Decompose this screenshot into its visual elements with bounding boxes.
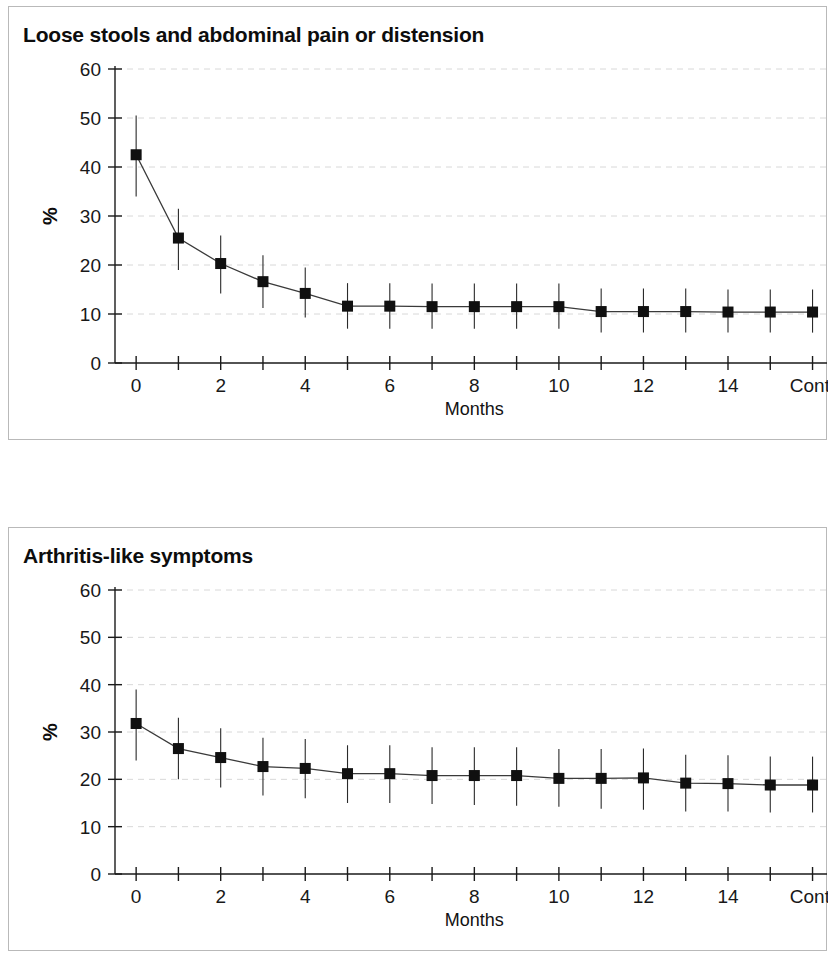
data-point-marker[interactable] <box>131 718 142 729</box>
data-point-marker[interactable] <box>342 301 353 312</box>
data-point-marker[interactable] <box>300 763 311 774</box>
x-tick-label: 0 <box>131 886 142 907</box>
data-point-marker[interactable] <box>300 288 311 299</box>
x-tick-label: 0 <box>131 375 142 396</box>
y-tick-label: 60 <box>80 59 101 80</box>
y-tick-label: 0 <box>90 864 101 885</box>
x-tick-label: 4 <box>300 886 311 907</box>
data-point-marker[interactable] <box>384 768 395 779</box>
data-point-marker[interactable] <box>722 778 733 789</box>
data-point-marker[interactable] <box>131 149 142 160</box>
chart-panel-loose-stools: Loose stools and abdominal pain or diste… <box>8 6 827 440</box>
y-tick-label: 30 <box>80 722 101 743</box>
x-axis-title: Months <box>445 910 504 930</box>
x-tick-label: 6 <box>385 886 396 907</box>
y-tick-label: 40 <box>80 675 101 696</box>
x-tick-label: 10 <box>548 375 569 396</box>
y-axis-title: % <box>39 723 61 741</box>
x-tick-label: 8 <box>469 375 480 396</box>
x-tick-label: 14 <box>717 375 739 396</box>
data-point-marker[interactable] <box>638 306 649 317</box>
data-point-marker[interactable] <box>511 770 522 781</box>
data-point-marker[interactable] <box>765 307 776 318</box>
data-point-marker[interactable] <box>384 301 395 312</box>
chart-svg: 010203040506002468101214Cont.Months% <box>9 7 828 441</box>
x-tick-label: 12 <box>633 886 654 907</box>
x-tick-label: 8 <box>469 886 480 907</box>
chart-panel-arthritis: Arthritis-like symptoms 0102030405060024… <box>8 527 827 951</box>
y-tick-label: 40 <box>80 157 101 178</box>
chart-svg: 010203040506002468101214Cont.Months% <box>9 528 828 952</box>
x-axis-title: Months <box>445 399 504 419</box>
data-point-marker[interactable] <box>680 306 691 317</box>
data-point-marker[interactable] <box>680 778 691 789</box>
data-point-marker[interactable] <box>427 301 438 312</box>
y-tick-label: 20 <box>80 769 101 790</box>
y-tick-label: 60 <box>80 580 101 601</box>
x-tick-label: 12 <box>633 375 654 396</box>
y-tick-label: 20 <box>80 255 101 276</box>
y-tick-label: 50 <box>80 627 101 648</box>
data-point-marker[interactable] <box>469 770 480 781</box>
data-point-marker[interactable] <box>638 772 649 783</box>
y-tick-label: 10 <box>80 817 101 838</box>
data-point-marker[interactable] <box>553 301 564 312</box>
data-point-marker[interactable] <box>807 780 818 791</box>
data-point-marker[interactable] <box>596 773 607 784</box>
y-tick-label: 50 <box>80 108 101 129</box>
data-point-marker[interactable] <box>596 306 607 317</box>
data-point-marker[interactable] <box>215 752 226 763</box>
plot-area-1: 010203040506002468101214Cont.Months% <box>9 7 826 439</box>
x-tick-label: 6 <box>385 375 396 396</box>
x-tick-label: 2 <box>215 375 226 396</box>
data-point-marker[interactable] <box>553 773 564 784</box>
x-tick-label: 10 <box>548 886 569 907</box>
data-point-marker[interactable] <box>807 307 818 318</box>
data-point-marker[interactable] <box>427 770 438 781</box>
data-point-marker[interactable] <box>511 301 522 312</box>
y-tick-label: 10 <box>80 304 101 325</box>
data-point-marker[interactable] <box>765 780 776 791</box>
data-point-marker[interactable] <box>469 301 480 312</box>
x-tick-label: 2 <box>215 886 226 907</box>
y-tick-label: 30 <box>80 206 101 227</box>
data-point-marker[interactable] <box>257 761 268 772</box>
plot-area-2: 010203040506002468101214Cont.Months% <box>9 528 826 950</box>
x-tick-label: 4 <box>300 375 311 396</box>
data-point-marker[interactable] <box>257 276 268 287</box>
x-tick-label: Cont. <box>790 375 828 396</box>
y-axis-title: % <box>39 207 61 225</box>
data-point-marker[interactable] <box>722 307 733 318</box>
data-point-marker[interactable] <box>173 743 184 754</box>
data-point-marker[interactable] <box>215 258 226 269</box>
x-tick-label: 14 <box>717 886 739 907</box>
data-point-marker[interactable] <box>173 233 184 244</box>
data-point-marker[interactable] <box>342 768 353 779</box>
x-tick-label: Cont. <box>790 886 828 907</box>
y-tick-label: 0 <box>90 353 101 374</box>
